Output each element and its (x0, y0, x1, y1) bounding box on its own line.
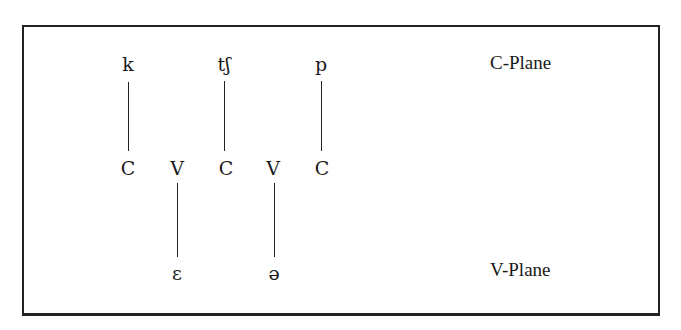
v-plane-segment-schwa: ə (268, 263, 279, 283)
skeleton-slot-c: C (219, 158, 234, 178)
association-line (177, 183, 178, 257)
association-line (224, 81, 225, 151)
c-plane-segment-tsh: tʃ (218, 54, 231, 74)
skeleton-slot-v: V (170, 158, 184, 178)
skeleton-slot-c: C (315, 158, 330, 178)
v-plane-label: V-Plane (490, 260, 551, 280)
skeleton-slot-v: V (266, 158, 280, 178)
diagram-frame (22, 25, 660, 316)
association-line (321, 81, 322, 151)
skeleton-slot-c: C (121, 158, 136, 178)
v-plane-segment-epsilon: ɛ (172, 263, 182, 283)
c-plane-segment-p: p (315, 54, 327, 74)
c-plane-segment-k: k (122, 54, 134, 74)
c-plane-label: C-Plane (490, 53, 551, 73)
association-line (274, 183, 275, 257)
association-line (128, 82, 129, 151)
